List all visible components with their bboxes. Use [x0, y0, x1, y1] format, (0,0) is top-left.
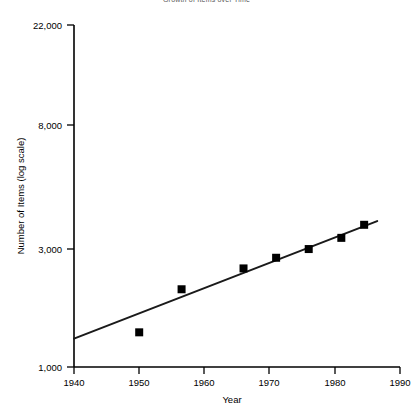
chart-figure: Growth of Items over Time 22,000 8,000 3…: [0, 0, 413, 411]
trend-line: [74, 221, 377, 338]
data-point-marker: [178, 285, 186, 293]
x-axis-title: Year: [222, 394, 241, 405]
x-tick-label-1990: 1990: [389, 377, 410, 388]
x-tick-label-1950: 1950: [128, 377, 149, 388]
y-tick-label-8000: 8,000: [38, 120, 62, 131]
y-tick-label-1000: 1,000: [38, 362, 62, 373]
y-axis-title: Number of Items (log scale): [15, 138, 26, 255]
data-point-marker: [240, 264, 248, 272]
data-point-marker: [272, 254, 280, 262]
x-axis-ticks: [74, 367, 400, 374]
y-axis-ticks: [67, 25, 74, 367]
data-point-marker: [360, 221, 368, 229]
x-tick-label-1940: 1940: [63, 377, 84, 388]
data-point-marker: [135, 328, 143, 336]
chart-canvas: 22,000 8,000 3,000 1,000 1940 1950 1960 …: [0, 0, 413, 411]
x-tick-label-1960: 1960: [193, 377, 214, 388]
y-tick-label-22000: 22,000: [33, 20, 62, 31]
data-point-marker: [305, 245, 313, 253]
data-point-marker: [337, 234, 345, 242]
x-tick-label-1980: 1980: [324, 377, 345, 388]
y-tick-label-3000: 3,000: [38, 244, 62, 255]
x-tick-label-1970: 1970: [258, 377, 279, 388]
